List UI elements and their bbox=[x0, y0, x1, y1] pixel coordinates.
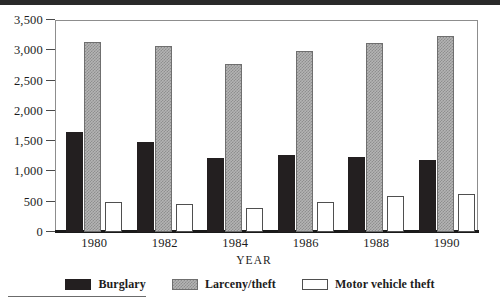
bar-group bbox=[207, 20, 263, 232]
x-axis-tick-label: 1982 bbox=[135, 236, 195, 251]
bar-group bbox=[66, 20, 122, 232]
bar-group bbox=[278, 20, 334, 232]
legend-label-larceny-theft: Larceny/theft bbox=[205, 277, 276, 292]
legend-label-burglary: Burglary bbox=[98, 277, 145, 292]
bar-motor-1984[interactable] bbox=[246, 208, 263, 232]
legend-label-motor-vehicle-theft: Motor vehicle theft bbox=[335, 277, 435, 292]
y-axis-tick-mark bbox=[46, 110, 55, 111]
bar-motor-1986[interactable] bbox=[317, 202, 334, 232]
x-axis-tick-label: 1980 bbox=[64, 236, 124, 251]
y-axis-tick-mark bbox=[46, 231, 55, 232]
bar-group bbox=[419, 20, 475, 232]
bars-layer bbox=[55, 20, 478, 232]
bar-burglary-1982[interactable] bbox=[137, 142, 154, 232]
y-axis-tick-label: 0 bbox=[37, 225, 43, 239]
y-axis-tick-mark bbox=[46, 19, 55, 20]
bar-burglary-1986[interactable] bbox=[278, 155, 295, 232]
bar-burglary-1988[interactable] bbox=[348, 157, 365, 232]
y-axis-tick-label: 1,500 bbox=[14, 134, 43, 148]
x-axis-title: YEAR bbox=[0, 254, 500, 266]
bar-motor-1988[interactable] bbox=[387, 196, 404, 232]
x-axis-tick-labels: 198019821984198619881990 bbox=[55, 236, 478, 254]
y-axis-tick-mark bbox=[46, 140, 55, 141]
bar-motor-1980[interactable] bbox=[105, 202, 122, 232]
bar-larceny-1980[interactable] bbox=[84, 42, 101, 232]
bar-larceny-1990[interactable] bbox=[437, 36, 454, 232]
bar-group bbox=[137, 20, 193, 232]
y-axis-tick-label: 3,000 bbox=[14, 43, 43, 57]
bar-burglary-1984[interactable] bbox=[207, 158, 224, 233]
bar-larceny-1986[interactable] bbox=[296, 51, 313, 232]
chart-legend: Burglary Larceny/theft Motor vehicle the… bbox=[0, 276, 500, 292]
x-axis-tick-label: 1986 bbox=[276, 236, 336, 251]
y-axis-tick-mark bbox=[46, 170, 55, 171]
bar-motor-1982[interactable] bbox=[176, 204, 193, 232]
bar-larceny-1982[interactable] bbox=[155, 46, 172, 232]
y-axis-tick-label: 3,500 bbox=[14, 13, 43, 27]
white-outline-swatch-icon bbox=[302, 279, 328, 290]
y-axis-tick-label: 2,500 bbox=[14, 74, 43, 88]
legend-item-motor-vehicle-theft[interactable]: Motor vehicle theft bbox=[302, 277, 435, 292]
y-axis-tick-mark bbox=[46, 80, 55, 81]
crime-rate-bar-chart: 05001,0001,5002,0002,5003,0003,500 19801… bbox=[0, 0, 500, 304]
y-axis-tick-mark bbox=[46, 49, 55, 50]
y-axis-tick-label: 1,000 bbox=[14, 164, 43, 178]
x-axis-tick-label: 1988 bbox=[346, 236, 406, 251]
bar-burglary-1980[interactable] bbox=[66, 132, 83, 232]
y-axis-tick-mark bbox=[46, 201, 55, 202]
hatched-gray-swatch-icon bbox=[172, 279, 198, 290]
y-axis-tick-label: 500 bbox=[24, 195, 43, 209]
solid-black-swatch-icon bbox=[65, 279, 91, 290]
legend-item-burglary[interactable]: Burglary bbox=[65, 277, 145, 292]
bar-larceny-1988[interactable] bbox=[366, 43, 383, 232]
bar-group bbox=[348, 20, 404, 232]
x-axis-tick-label: 1984 bbox=[205, 236, 265, 251]
footnote-rule bbox=[8, 296, 146, 297]
bar-burglary-1990[interactable] bbox=[419, 160, 436, 232]
bar-motor-1990[interactable] bbox=[458, 194, 475, 232]
legend-item-larceny-theft[interactable]: Larceny/theft bbox=[172, 277, 276, 292]
bar-larceny-1984[interactable] bbox=[225, 64, 242, 232]
y-axis-tick-label: 2,000 bbox=[14, 104, 43, 118]
x-axis-tick-label: 1990 bbox=[417, 236, 477, 251]
